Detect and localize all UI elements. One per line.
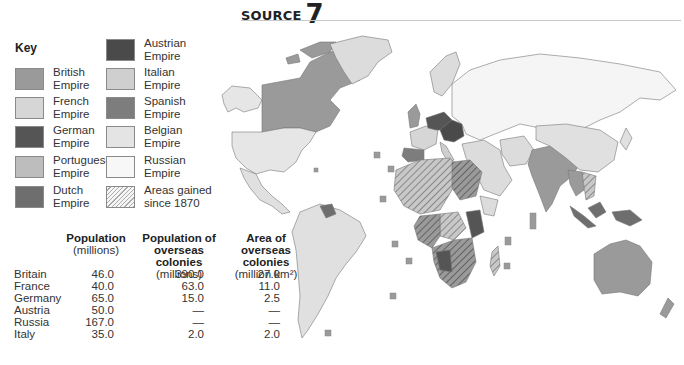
key-label-line2: since 1870 — [144, 197, 200, 209]
key-label-line2: Empire — [53, 167, 89, 179]
island-marker — [388, 166, 394, 172]
key-item-spanish: SpanishEmpire — [106, 95, 204, 121]
island-marker — [392, 241, 398, 247]
hatched-swatch — [106, 186, 135, 208]
key-item-dutch: DutchEmpire — [15, 184, 113, 210]
key-item-french: FrenchEmpire — [15, 95, 113, 121]
key-label-line1: Areas gained — [144, 184, 212, 196]
key-label-line1: German — [53, 124, 95, 136]
island-marker — [390, 293, 396, 299]
table-row: Russia 167.0 — — — [14, 316, 304, 328]
australia — [594, 240, 652, 296]
austrian-swatch — [106, 39, 135, 61]
key-label-line1: British — [53, 66, 85, 78]
key-item-german: GermanEmpire — [15, 124, 113, 150]
key-label-line2: Empire — [53, 108, 89, 120]
table-row: Britain 46.0 390.0 27.0 — [14, 268, 304, 280]
congo-belgian — [440, 212, 466, 240]
key-label-line2: Empire — [144, 137, 180, 149]
belgian-swatch — [106, 126, 135, 148]
key-title: Key — [15, 41, 37, 55]
table-row: Germany 65.0 15.0 2.5 — [14, 292, 304, 304]
key-label-line2: Empire — [53, 197, 89, 209]
horn-africa — [480, 196, 498, 216]
table-row: Austria 50.0 — — — [14, 304, 304, 316]
german-swatch — [15, 126, 44, 148]
key-label-line1: Spanish — [144, 95, 186, 107]
island-marker — [380, 196, 386, 202]
key-label-line1: Dutch — [53, 184, 83, 196]
britain — [408, 104, 420, 128]
british-swatch — [15, 68, 44, 90]
island-marker — [505, 237, 511, 245]
key-label-line2: Empire — [144, 167, 180, 179]
key-label-line1: Belgian — [144, 124, 182, 136]
key-item-russian: RussianEmpire — [106, 154, 204, 180]
island-marker — [374, 152, 380, 158]
island-marker — [530, 213, 536, 229]
key-item-british: BritishEmpire — [15, 66, 113, 92]
burma — [568, 170, 584, 196]
key-label-line2: Empire — [144, 108, 180, 120]
key-label-line1: Italian — [144, 66, 175, 78]
russian-swatch — [106, 156, 135, 178]
key-item-italian: ItalianEmpire — [106, 66, 204, 92]
key-label-line2: Empire — [144, 79, 180, 91]
key-item-areas-gained: Areas gainedsince 1870 — [106, 184, 224, 210]
island-marker — [325, 330, 331, 336]
indochina — [582, 172, 596, 200]
key-item-portuguese: PortugueseEmpire — [15, 154, 113, 180]
header-population: Population (millions) — [60, 232, 132, 256]
dutch-east-indies — [570, 202, 642, 228]
new-zealand — [660, 298, 674, 318]
alaska — [222, 86, 262, 112]
dutch-swatch — [15, 186, 44, 208]
mexico — [240, 168, 290, 214]
key-label-line2: Empire — [53, 79, 89, 91]
key-label-line1: Russian — [144, 154, 186, 166]
french-swatch — [15, 97, 44, 119]
italian-swatch — [106, 68, 135, 90]
key-label-line1: French — [53, 95, 89, 107]
north-africa-french — [394, 158, 460, 214]
island-marker — [504, 263, 510, 269]
key-item-belgian: BelgianEmpire — [106, 124, 204, 150]
german-east-africa — [466, 210, 484, 238]
central-africa — [414, 214, 440, 248]
key-label-line2: Empire — [144, 50, 180, 62]
usa — [232, 128, 316, 174]
japan — [620, 128, 632, 150]
table-row: France 40.0 63.0 11.0 — [14, 280, 304, 292]
madagascar — [490, 246, 500, 276]
key-label-line1: Austrian — [144, 37, 186, 49]
key-label-line2: Empire — [53, 137, 89, 149]
island-marker — [406, 258, 412, 264]
portuguese-swatch — [15, 156, 44, 178]
island-marker — [314, 168, 318, 172]
table-row: Italy 35.0 2.0 2.0 — [14, 328, 304, 340]
key-item-austrian: AustrianEmpire — [106, 37, 204, 63]
key-label-line1: Portuguese — [53, 154, 112, 166]
spanish-swatch — [106, 97, 135, 119]
